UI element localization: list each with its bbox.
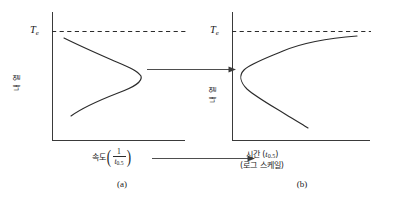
panel-a-tag: (a)	[110, 179, 134, 189]
transition-arrow-top	[147, 66, 236, 72]
right-paren: )	[127, 149, 131, 165]
panel-b-te-sub: e	[216, 29, 219, 37]
panel-b-x-axis-label-line1: 시간 (t0.5)	[217, 150, 307, 160]
panel-b-x-axis-label-line2: (로그 스케일)	[217, 162, 307, 171]
panel-b-x-axis-prefix: 시간 (	[246, 150, 266, 159]
left-paren: (	[107, 149, 111, 165]
panel-b-transformation-curve	[241, 36, 357, 128]
panel-a-frac-numerator: 1	[117, 148, 121, 156]
panel-a-frac-denominator: t0.5	[114, 157, 123, 166]
panel-a-x-axis-label-prefix: 속도	[92, 153, 106, 162]
panel-a-te-label: Te	[30, 24, 39, 37]
panel-b-x-axis-suffix: )	[275, 150, 278, 159]
figure-svg	[0, 0, 393, 202]
panel-a-x-axis-label: 속도(1t0.5)	[92, 148, 132, 166]
figure-container: Te 내 열 속도(1t0.5) (a) 내 열 Te 시간 (t0.5) (로…	[0, 0, 393, 202]
panel-b-tag: (b)	[290, 179, 314, 189]
panel-b-x-axis-var: t0.5	[265, 150, 275, 159]
transition-arrow-label: 내 열	[209, 74, 217, 114]
panel-a-y-axis-label: 내 열	[13, 62, 21, 102]
panel-a-x-axis-fraction: (1t0.5)	[106, 148, 132, 166]
panel-b-group	[232, 12, 371, 141]
panel-a-transformation-curve	[64, 38, 141, 116]
panel-a-te-sub: e	[36, 29, 39, 37]
panel-a-group	[52, 12, 186, 141]
panel-b-te-label: Te	[210, 24, 219, 37]
